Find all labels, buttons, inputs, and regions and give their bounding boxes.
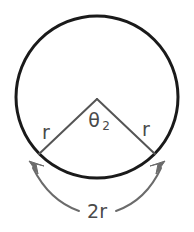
chord-arrow-left-head (29, 161, 44, 174)
circle-angle-figure: r r θ 2 2r (0, 0, 194, 232)
left-radius-label: r (42, 121, 50, 143)
theta-subscript: 2 (102, 119, 110, 133)
right-radius-label: r (142, 118, 150, 140)
geometry-diagram: r r θ 2 2r (0, 0, 194, 232)
chord-arrow-right-head (150, 161, 165, 174)
chord-length-label: 2r (87, 200, 107, 222)
theta-symbol: θ (88, 109, 100, 131)
